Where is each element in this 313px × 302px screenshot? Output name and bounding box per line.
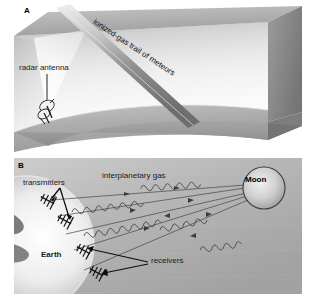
label-transmitters: transmitters xyxy=(23,179,65,187)
label-earth: Earth xyxy=(41,251,61,259)
label-receivers: receivers xyxy=(151,257,183,265)
box-right-face xyxy=(268,6,302,122)
panel-letter-b: B xyxy=(18,161,24,170)
panel-a: radar antenna ionized-gas trail of meteo… xyxy=(0,0,313,155)
panel-b: transmitters interplanetary gas Moon Ear… xyxy=(14,158,302,294)
label-moon: Moon xyxy=(245,176,266,184)
moon-sphere xyxy=(243,167,285,209)
panel-letter-a: A xyxy=(24,6,30,15)
label-interplanetary-gas: interplanetary gas xyxy=(102,172,166,180)
label-radar-antenna: radar antenna xyxy=(19,64,69,72)
figure-root: radar antenna ionized-gas trail of meteo… xyxy=(0,0,313,302)
panel-a-graphic xyxy=(0,0,313,155)
